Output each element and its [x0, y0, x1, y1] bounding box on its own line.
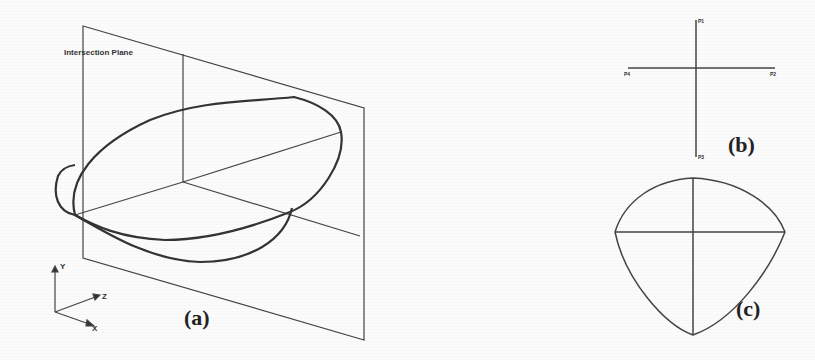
axis-z-arrow-icon: [93, 294, 100, 300]
plane-left-line: [75, 182, 183, 215]
intersection-plane: [83, 26, 364, 340]
plane-horizontal-line: [183, 182, 360, 236]
axis-y-arrow-icon: [52, 266, 58, 272]
point-p2-label: P2: [770, 71, 776, 77]
panel-a-drawing: [52, 26, 364, 340]
panel-b-caption: (b): [728, 132, 755, 158]
cross-section-curve-lower: [56, 165, 292, 262]
axis-y-label: Y: [60, 262, 65, 271]
panel-c-caption: (c): [736, 296, 760, 322]
axis-z-line: [55, 296, 98, 312]
panel-a-caption: (a): [184, 305, 210, 331]
axis-x-label: X: [92, 324, 97, 333]
axis-z-label: Z: [102, 292, 107, 301]
plane-diagonal-line: [183, 132, 341, 182]
intersection-plane-label: Intersection Plane: [64, 48, 133, 57]
point-p4-label: P4: [624, 71, 630, 77]
point-p1-label: P1: [698, 18, 704, 24]
point-p3-label: P3: [698, 154, 704, 160]
